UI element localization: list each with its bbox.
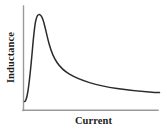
y-axis-label: Inductance: [6, 32, 17, 83]
x-axis-label: Current: [0, 115, 167, 126]
inductance-curve: [25, 15, 160, 102]
y-axis-label-container: Inductance: [0, 0, 22, 115]
chart-plot-area: [0, 0, 167, 132]
inductance-vs-current-chart: Inductance Current: [0, 0, 167, 132]
